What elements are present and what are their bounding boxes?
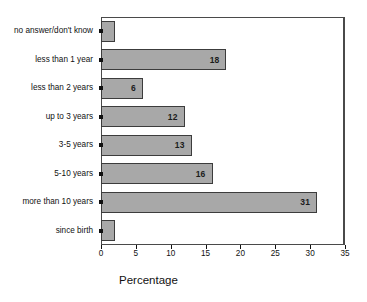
bar-chart: no answer/don't knowless than 1 yearless…: [0, 0, 367, 302]
bar-value-label: 18: [210, 56, 220, 65]
bar-row: 13: [101, 135, 345, 156]
bar: 13: [101, 135, 192, 156]
x-axis-tick-label: 10: [166, 250, 175, 258]
bar: 31: [101, 192, 317, 213]
y-axis-tick-mark: [99, 29, 103, 33]
y-axis-tick-label: more than 10 years: [0, 196, 96, 208]
bar-row: 31: [101, 192, 345, 213]
y-axis-tick-label: less than 2 years: [0, 82, 96, 94]
y-axis-tick-mark: [99, 172, 103, 176]
x-axis-tick-label: 25: [271, 250, 280, 258]
bar: 16: [101, 163, 213, 184]
bar: 18: [101, 49, 226, 70]
bar-value-label: 12: [168, 113, 178, 122]
y-axis-tick-label: 5-10 years: [0, 168, 96, 180]
bar: 12: [101, 106, 185, 127]
y-axis-tick-label: up to 3 years: [0, 111, 96, 123]
y-axis-tick-mark: [99, 143, 103, 147]
y-axis-tick-mark: [99, 229, 103, 233]
x-axis-tick-label: 30: [306, 250, 315, 258]
x-axis-tick-label: 15: [201, 250, 210, 258]
y-axis-tick-mark: [99, 115, 103, 119]
y-axis-tick-label: since birth: [0, 225, 96, 237]
bar-value-label: 13: [175, 141, 185, 150]
y-axis-category-labels: no answer/don't knowless than 1 yearless…: [0, 17, 96, 245]
bar-row: 12: [101, 106, 345, 127]
y-axis-tick-label: less than 1 year: [0, 54, 96, 66]
y-axis-tick-mark: [99, 200, 103, 204]
bar-row: [101, 220, 345, 241]
x-axis-tick-label: 5: [134, 250, 139, 258]
bar: 6: [101, 78, 143, 99]
y-axis-tick-label: 3-5 years: [0, 139, 96, 151]
bar-value-label: 16: [196, 170, 206, 179]
bar-value-label: 6: [131, 84, 136, 93]
bar-row: 16: [101, 163, 345, 184]
y-axis-tick-mark: [99, 86, 103, 90]
x-axis-ticks: 05101520253035: [101, 245, 345, 265]
bar-value-label: 31: [300, 198, 310, 207]
bar: [101, 21, 115, 42]
bar: [101, 220, 115, 241]
bar-row: 6: [101, 78, 345, 99]
y-axis-tick-label: no answer/don't know: [0, 25, 96, 37]
x-axis-title: Percentage: [101, 275, 345, 287]
bar-row: 18: [101, 49, 345, 70]
bars-layer: 18612131631: [101, 17, 345, 245]
x-axis-tick-label: 20: [236, 250, 245, 258]
x-axis-tick-label: 35: [340, 250, 349, 258]
bar-row: [101, 21, 345, 42]
x-axis-tick-label: 0: [99, 250, 104, 258]
y-axis-tick-mark: [99, 58, 103, 62]
